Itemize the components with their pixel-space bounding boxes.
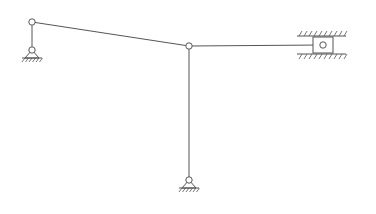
hatch-mark xyxy=(33,58,36,62)
hatch-mark xyxy=(179,188,182,192)
hatch-mark xyxy=(309,31,312,36)
hatch-mark xyxy=(314,31,317,36)
hatch-mark xyxy=(40,58,43,62)
hatch-mark xyxy=(197,188,200,192)
ground-pivot-icon xyxy=(29,47,35,53)
hatch-mark xyxy=(29,58,32,62)
hatch-mark xyxy=(324,31,327,36)
hatch-mark xyxy=(304,54,307,59)
hatch-mark xyxy=(319,54,322,59)
linkage-canvas xyxy=(0,0,376,214)
hatch-mark xyxy=(22,58,25,62)
ground-pivot-icon xyxy=(186,177,192,183)
joint-A-icon xyxy=(29,19,35,25)
hatch-mark xyxy=(299,54,302,59)
hatch-mark xyxy=(299,31,302,36)
link-connecting-rod xyxy=(189,45,323,46)
hatch-mark xyxy=(36,58,39,62)
hatch-mark xyxy=(329,31,332,36)
hatch-mark xyxy=(339,31,342,36)
hatch-mark xyxy=(319,31,322,36)
hatch-mark xyxy=(324,54,327,59)
hatch-mark xyxy=(344,31,347,36)
hatch-mark xyxy=(186,188,189,192)
hatch-mark xyxy=(339,54,342,59)
mechanism-diagram xyxy=(0,0,376,214)
hatch-mark xyxy=(334,31,337,36)
hatch-mark xyxy=(344,54,347,59)
joint-C-icon xyxy=(320,42,326,48)
hatch-mark xyxy=(329,54,332,59)
hatch-mark xyxy=(193,188,196,192)
hatch-mark xyxy=(190,188,193,192)
hatch-mark xyxy=(309,54,312,59)
hatch-mark xyxy=(304,31,307,36)
hatch-mark xyxy=(26,58,29,62)
joint-B-icon xyxy=(186,43,192,49)
hatch-mark xyxy=(334,54,337,59)
hatch-mark xyxy=(183,188,186,192)
hatch-mark xyxy=(314,54,317,59)
link-coupler xyxy=(32,22,189,46)
